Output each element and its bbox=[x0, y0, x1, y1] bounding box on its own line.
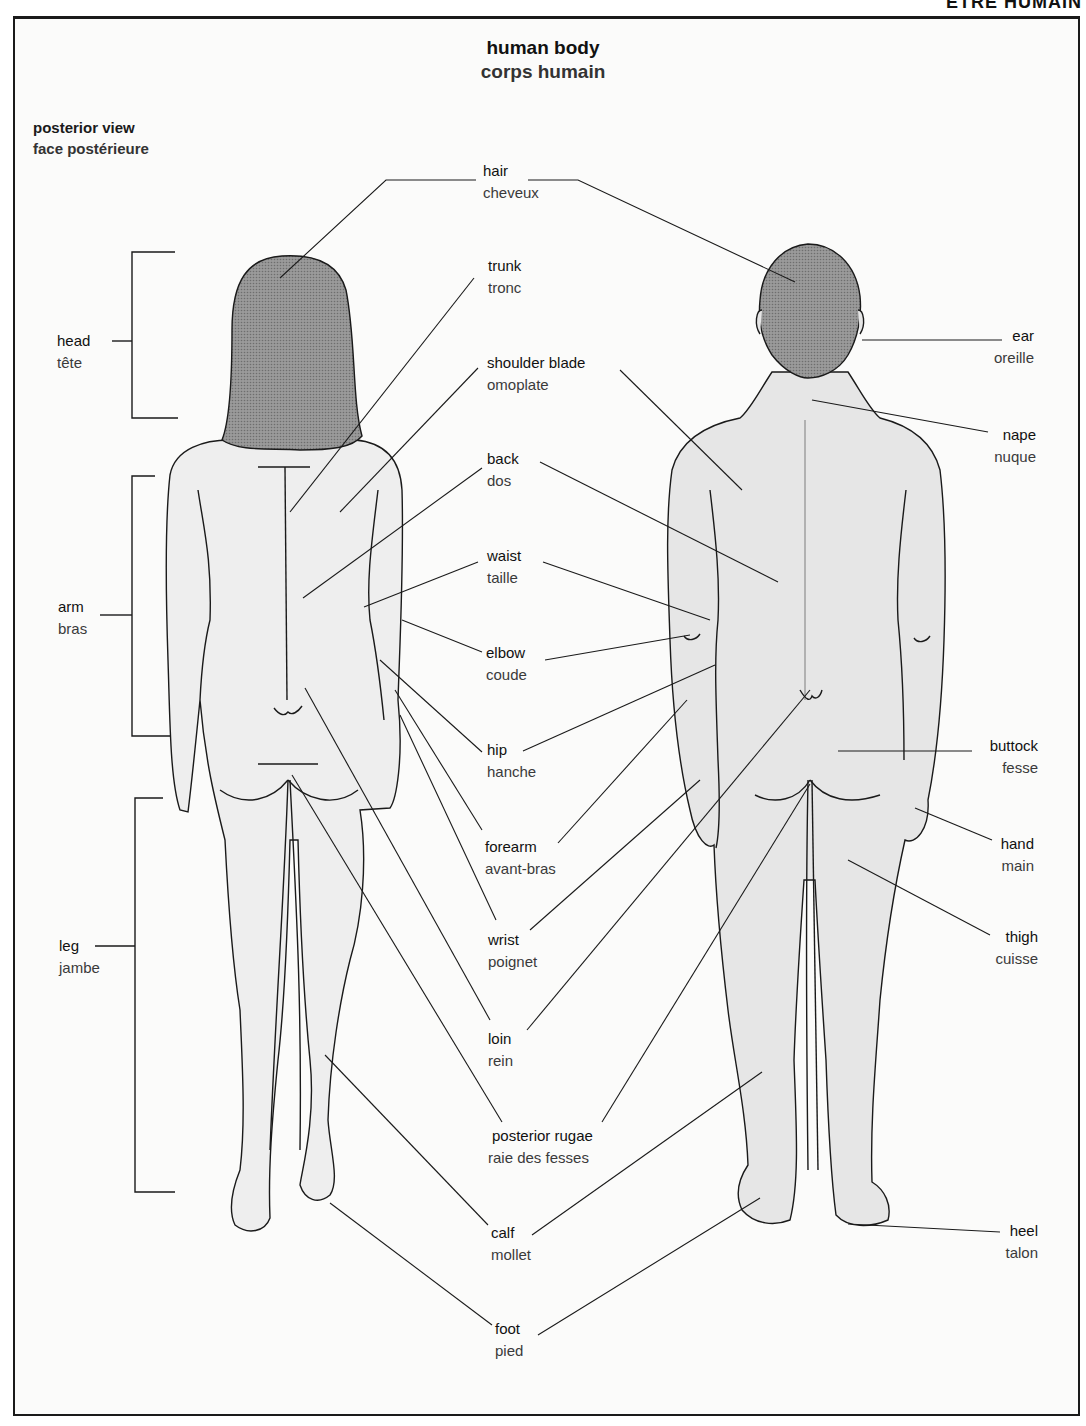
label-forearm: forearmavant-bras bbox=[485, 836, 556, 880]
label-waist: waisttaille bbox=[487, 545, 521, 589]
label-thigh: thighcuisse bbox=[995, 926, 1038, 970]
label-ear: earoreille bbox=[994, 325, 1034, 369]
label-back: backdos bbox=[487, 448, 519, 492]
label-foot: footpied bbox=[495, 1318, 523, 1362]
label-elbow: elbowcoude bbox=[486, 642, 527, 686]
label-arm: armbras bbox=[58, 596, 87, 640]
label-loin: loinrein bbox=[488, 1028, 513, 1072]
view-label-french: face postérieure bbox=[33, 139, 149, 159]
label-hand: handmain bbox=[1001, 833, 1034, 877]
label-hair: haircheveux bbox=[483, 160, 539, 204]
title-french: corps humain bbox=[0, 60, 1086, 83]
label-leg: legjambe bbox=[59, 935, 100, 979]
title-english: human body bbox=[0, 36, 1086, 59]
male-figure bbox=[668, 244, 946, 1225]
label-posterior-rugae: posterior rugaeraie des fesses bbox=[488, 1125, 593, 1169]
label-trunk: trunktronc bbox=[488, 255, 521, 299]
region-brackets bbox=[95, 252, 178, 1192]
female-figure bbox=[166, 256, 402, 1231]
label-buttock: buttockfesse bbox=[990, 735, 1038, 779]
label-head: headtête bbox=[57, 330, 90, 374]
label-hip: hiphanche bbox=[487, 739, 536, 783]
view-label-english: posterior view bbox=[33, 118, 135, 138]
label-nape: napenuque bbox=[994, 424, 1036, 468]
label-heel: heeltalon bbox=[1005, 1220, 1038, 1264]
body-illustration bbox=[0, 0, 1086, 1426]
label-shoulder-blade: shoulder bladeomoplate bbox=[487, 352, 585, 396]
label-wrist: wristpoignet bbox=[488, 929, 537, 973]
label-calf: calfmollet bbox=[491, 1222, 531, 1266]
